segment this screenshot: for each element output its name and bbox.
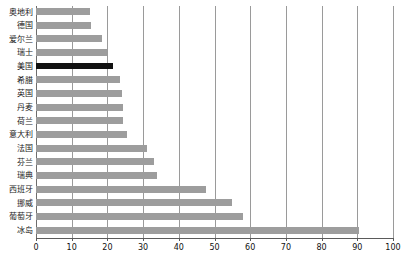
bar-德国 (36, 22, 91, 29)
bar-row (36, 74, 393, 88)
bar-row (36, 142, 393, 156)
bar-row (36, 197, 393, 211)
category-label-奥地利: 奥地利 (0, 8, 33, 18)
bar-row (36, 211, 393, 225)
bar-row (36, 61, 393, 75)
tick-label-60: 60 (235, 242, 265, 253)
tick-label-50: 50 (200, 242, 230, 253)
category-label-芬兰: 芬兰 (0, 158, 33, 168)
gridline-100 (393, 6, 394, 238)
tick-label-80: 80 (307, 242, 337, 253)
bar-希腊 (36, 76, 120, 83)
tick-label-30: 30 (128, 242, 158, 253)
tick-label-90: 90 (342, 242, 372, 253)
bar-row (36, 33, 393, 47)
tick-mark-0 (36, 238, 37, 241)
tick-mark-20 (107, 238, 108, 241)
tick-mark-100 (393, 238, 394, 241)
bar-row (36, 88, 393, 102)
category-label-瑞士: 瑞士 (0, 48, 33, 58)
category-label-荷兰: 荷兰 (0, 117, 33, 127)
category-label-法国: 法国 (0, 144, 33, 154)
category-label-希腊: 希腊 (0, 76, 33, 86)
bar-挪威 (36, 199, 232, 206)
category-label-德国: 德国 (0, 21, 33, 31)
bar-美国 (36, 63, 113, 69)
bar-瑞士 (36, 49, 107, 56)
bar-chart: 奥地利德国爱尔兰瑞士美国希腊英国丹麦荷兰意大利法国芬兰瑞典西班牙挪威葡萄牙冰岛 … (0, 0, 404, 258)
category-label-瑞典: 瑞典 (0, 171, 33, 181)
category-label-美国: 美国 (0, 62, 33, 72)
bar-row (36, 183, 393, 197)
bar-英国 (36, 90, 122, 97)
tick-mark-90 (357, 238, 358, 241)
tick-mark-10 (72, 238, 73, 241)
category-label-爱尔兰: 爱尔兰 (0, 35, 33, 45)
tick-label-10: 10 (57, 242, 87, 253)
category-label-西班牙: 西班牙 (0, 185, 33, 195)
category-label-丹麦: 丹麦 (0, 103, 33, 113)
bar-西班牙 (36, 186, 206, 193)
bar-葡萄牙 (36, 213, 243, 220)
bar-瑞典 (36, 172, 157, 179)
bar-丹麦 (36, 104, 123, 111)
bar-法国 (36, 145, 147, 152)
tick-label-70: 70 (271, 242, 301, 253)
tick-label-40: 40 (164, 242, 194, 253)
bar-row (36, 115, 393, 129)
bar-冰岛 (36, 227, 359, 234)
bar-奥地利 (36, 8, 90, 15)
bar-爱尔兰 (36, 35, 102, 42)
bars-layer (36, 6, 393, 238)
tick-mark-40 (179, 238, 180, 241)
bar-row (36, 156, 393, 170)
bar-row (36, 47, 393, 61)
bar-row (36, 6, 393, 20)
bar-row (36, 20, 393, 34)
bar-荷兰 (36, 117, 123, 124)
bar-row (36, 129, 393, 143)
bar-row (36, 170, 393, 184)
tick-label-20: 20 (92, 242, 122, 253)
category-label-挪威: 挪威 (0, 199, 33, 209)
bar-芬兰 (36, 158, 154, 165)
tick-label-0: 0 (21, 242, 51, 253)
bar-row (36, 102, 393, 116)
tick-label-100: 100 (378, 242, 404, 253)
tick-mark-30 (143, 238, 144, 241)
tick-mark-70 (286, 238, 287, 241)
category-label-葡萄牙: 葡萄牙 (0, 212, 33, 222)
bar-row (36, 224, 393, 238)
category-label-意大利: 意大利 (0, 130, 33, 140)
tick-mark-50 (215, 238, 216, 241)
category-label-英国: 英国 (0, 89, 33, 99)
tick-mark-60 (250, 238, 251, 241)
bar-意大利 (36, 131, 127, 138)
category-label-冰岛: 冰岛 (0, 226, 33, 236)
tick-mark-80 (322, 238, 323, 241)
